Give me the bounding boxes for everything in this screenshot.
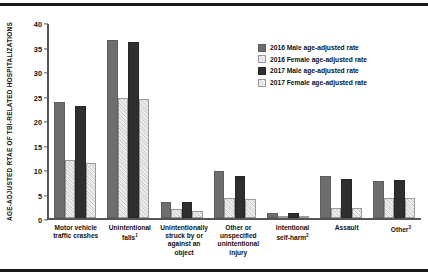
legend-item[interactable]: 2016 Male age-adjusted rate xyxy=(258,42,367,54)
x-axis-label: Other orunspecifiedunintentionalinjury xyxy=(211,224,265,257)
bar-m17[interactable] xyxy=(288,213,299,218)
y-tick-mark xyxy=(44,121,48,122)
bar-m17[interactable] xyxy=(235,176,246,218)
bar-m17[interactable] xyxy=(341,179,352,219)
bar-f17[interactable] xyxy=(352,208,363,218)
bar-f16[interactable] xyxy=(384,198,395,219)
x-axis-line xyxy=(47,218,421,220)
y-tick-label: 20 xyxy=(22,118,42,127)
y-tick-label: 5 xyxy=(22,191,42,200)
bar-group xyxy=(208,24,261,218)
y-tick-mark xyxy=(44,48,48,49)
bar-m17[interactable] xyxy=(128,42,139,218)
bar-f16[interactable] xyxy=(65,160,76,219)
bar-m16[interactable] xyxy=(161,202,172,219)
legend-swatch-m16 xyxy=(258,44,266,52)
bar-f16[interactable] xyxy=(224,198,235,219)
x-axis-label: Other3 xyxy=(374,224,428,257)
bar-group xyxy=(155,24,208,218)
bar-f16[interactable] xyxy=(171,209,182,218)
bar-f17[interactable] xyxy=(86,163,97,219)
bar-group xyxy=(102,24,155,218)
x-axis-label: Assault xyxy=(320,224,374,257)
y-tick-label: 15 xyxy=(22,142,42,151)
bar-m17[interactable] xyxy=(75,106,86,218)
bar-m16[interactable] xyxy=(373,181,384,218)
legend-label: 2016 Female age-adjusted rate xyxy=(270,56,367,63)
y-tick-mark xyxy=(44,146,48,147)
y-tick-mark xyxy=(44,195,48,196)
y-tick-label: 30 xyxy=(22,69,42,78)
bar-f17[interactable] xyxy=(139,99,150,218)
y-tick-label: 25 xyxy=(22,93,42,102)
y-tick-mark xyxy=(44,72,48,73)
x-axis-labels: Motor vehicletraffic crashesUnintentiona… xyxy=(49,224,428,257)
y-tick-label: 10 xyxy=(22,167,42,176)
bar-f16[interactable] xyxy=(331,208,342,218)
legend-swatch-f17 xyxy=(258,79,266,87)
y-tick-mark xyxy=(44,97,48,98)
bar-m16[interactable] xyxy=(320,176,331,219)
legend-item[interactable]: 2017 Female age-adjusted rate xyxy=(258,77,367,89)
x-axis-label: Unintentionallystruck by oragainst anobj… xyxy=(157,224,211,257)
y-tick-mark xyxy=(44,219,48,220)
y-tick-mark xyxy=(44,170,48,171)
top-rule xyxy=(0,3,428,6)
bar-f17[interactable] xyxy=(245,199,256,218)
y-axis-title: AGE-ADJUSTED RTAE OF TBI-RELATED HOSPITA… xyxy=(6,16,13,228)
legend-item[interactable]: 2017 Male age-adjusted rate xyxy=(258,65,367,77)
x-axis-label: Motor vehicletraffic crashes xyxy=(49,224,103,257)
bottom-rule xyxy=(0,269,428,272)
bar-f16[interactable] xyxy=(118,98,129,218)
bar-m16[interactable] xyxy=(107,40,118,218)
legend-item[interactable]: 2016 Female age-adjusted rate xyxy=(258,54,367,66)
bar-f17[interactable] xyxy=(192,211,203,219)
chart-legend: 2016 Male age-adjusted rate2016 Female a… xyxy=(258,42,367,88)
legend-swatch-f16 xyxy=(258,55,266,63)
bar-group xyxy=(49,24,102,218)
chart-figure: AGE-ADJUSTED RTAE OF TBI-RELATED HOSPITA… xyxy=(0,0,428,274)
x-axis-label: Unintentionalfalls1 xyxy=(103,224,157,257)
bar-group xyxy=(368,24,421,218)
legend-label: 2016 Male age-adjusted rate xyxy=(270,44,359,51)
x-axis-label: Intentionalself-harm2 xyxy=(265,224,319,257)
legend-swatch-m17 xyxy=(258,67,266,75)
bar-m16[interactable] xyxy=(214,171,225,218)
bar-m16[interactable] xyxy=(54,102,65,218)
y-tick-label: 0 xyxy=(22,216,42,225)
legend-label: 2017 Female age-adjusted rate xyxy=(270,79,367,86)
bar-m17[interactable] xyxy=(182,202,193,218)
bar-f17[interactable] xyxy=(299,216,310,218)
legend-label: 2017 Male age-adjusted rate xyxy=(270,67,359,74)
bar-m17[interactable] xyxy=(394,180,405,219)
bar-m16[interactable] xyxy=(267,213,278,218)
bar-f16[interactable] xyxy=(278,216,289,218)
y-tick-label: 40 xyxy=(22,20,42,29)
bar-f17[interactable] xyxy=(405,198,416,218)
y-tick-label: 35 xyxy=(22,44,42,53)
y-tick-mark xyxy=(44,23,48,24)
